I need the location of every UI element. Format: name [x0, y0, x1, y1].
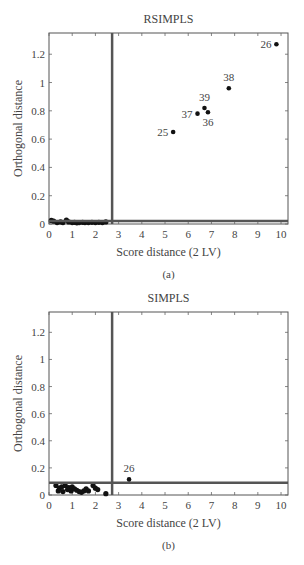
y-tick-label: 1 [40, 353, 46, 365]
y-tick-label: 0.8 [31, 381, 45, 393]
x-tick-label: 2 [93, 499, 99, 511]
x-tick-label: 5 [162, 499, 168, 511]
x-tick-label: 1 [69, 499, 75, 511]
x-tick-label: 2 [93, 228, 99, 240]
x-tick-label: 7 [209, 499, 215, 511]
y-tick-label: 0.4 [31, 435, 45, 447]
y-axis-label: Orthogonal distance [11, 355, 25, 452]
outlier-label: 38 [223, 71, 235, 83]
outlier-label: 26 [260, 38, 272, 50]
outlier-point [202, 106, 207, 111]
figure-panel-b: SIMPLS01234567891000.20.40.60.811.2Score… [0, 280, 304, 565]
x-tick-label: 9 [255, 228, 261, 240]
scatter-plot-rsimpls: RSIMPLS01234567891000.20.40.60.811.2Scor… [0, 0, 304, 280]
outlier-label: 36 [202, 116, 214, 128]
y-tick-label: 0 [40, 218, 46, 230]
x-tick-label: 3 [116, 499, 122, 511]
panel-label: (a) [162, 268, 175, 280]
y-axis-label: Orthogonal distance [11, 80, 25, 177]
data-point [60, 489, 65, 494]
x-tick-label: 6 [185, 228, 191, 240]
outlier-label: 26 [124, 462, 136, 474]
outlier-label: 25 [157, 126, 169, 138]
plot-area-frame [49, 312, 288, 495]
data-point [86, 488, 91, 493]
x-tick-label: 10 [276, 228, 288, 240]
x-tick-label: 10 [276, 499, 288, 511]
plot-area-frame [49, 33, 288, 224]
data-point [103, 491, 108, 496]
y-tick-label: 0.8 [31, 105, 45, 117]
x-tick-label: 9 [255, 499, 261, 511]
x-tick-label: 0 [46, 228, 52, 240]
figure-panel-a: RSIMPLS01234567891000.20.40.60.811.2Scor… [0, 0, 304, 280]
x-tick-label: 1 [69, 228, 75, 240]
x-tick-label: 8 [232, 228, 238, 240]
chart-title: SIMPLS [147, 291, 189, 305]
y-tick-label: 1.2 [31, 48, 45, 60]
x-tick-label: 4 [139, 499, 145, 511]
y-tick-label: 0 [40, 489, 46, 501]
panel-label: (b) [162, 539, 175, 552]
y-tick-label: 1 [40, 77, 46, 89]
x-tick-label: 4 [139, 228, 145, 240]
outlier-point [206, 110, 211, 115]
outlier-label: 39 [199, 91, 211, 103]
y-tick-label: 0.6 [31, 408, 45, 420]
y-tick-label: 0.4 [31, 161, 45, 173]
scatter-plot-simpls: SIMPLS01234567891000.20.40.60.811.2Score… [0, 280, 304, 565]
x-axis-label: Score distance (2 LV) [116, 245, 221, 259]
outlier-point [195, 111, 200, 116]
y-tick-label: 0.2 [31, 462, 45, 474]
x-tick-label: 0 [46, 499, 52, 511]
chart-title: RSIMPLS [143, 12, 193, 26]
x-axis-label: Score distance (2 LV) [116, 516, 221, 530]
y-tick-label: 0.6 [31, 133, 45, 145]
y-tick-label: 0.2 [31, 190, 45, 202]
outlier-point [171, 130, 176, 135]
x-tick-label: 3 [116, 228, 122, 240]
x-tick-label: 5 [162, 228, 168, 240]
outlier-point [127, 477, 132, 482]
data-point [95, 487, 100, 492]
outlier-point [274, 42, 279, 47]
outlier-label: 37 [182, 108, 194, 120]
x-tick-label: 8 [232, 499, 238, 511]
x-tick-label: 7 [209, 228, 215, 240]
y-tick-label: 1.2 [31, 326, 45, 338]
x-tick-label: 6 [185, 499, 191, 511]
outlier-point [227, 86, 232, 91]
